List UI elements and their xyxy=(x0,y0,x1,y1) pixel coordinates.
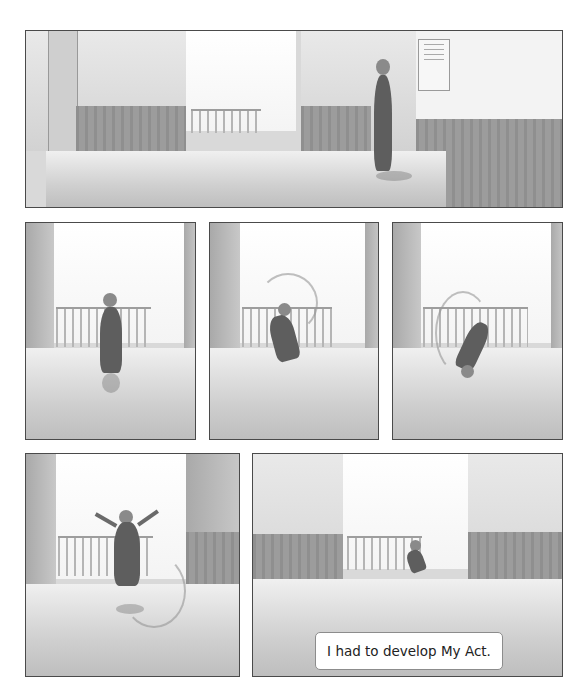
boy-head xyxy=(461,365,474,378)
caption-text: I had to develop My Act. xyxy=(327,643,491,659)
boy-head xyxy=(376,59,390,75)
boy-shadow xyxy=(376,171,412,181)
boy-standing xyxy=(374,75,392,171)
right-pillar xyxy=(551,223,563,358)
right-pillar xyxy=(365,223,379,358)
left-pillar xyxy=(393,223,421,358)
panel-1 xyxy=(25,30,563,208)
boy-walking xyxy=(100,307,122,373)
panel-5 xyxy=(25,453,240,677)
panel-2 xyxy=(25,222,196,440)
floor xyxy=(210,348,379,440)
motion-lines xyxy=(122,554,186,628)
boy-shadow xyxy=(102,373,120,393)
panel-4 xyxy=(392,222,563,440)
boy-shadow xyxy=(116,604,144,614)
right-wainscot-back xyxy=(301,106,371,151)
boy-head xyxy=(103,293,117,307)
left-pillar xyxy=(210,223,240,358)
left-pillar xyxy=(26,223,54,358)
left-pillar xyxy=(26,454,56,594)
right-pillar xyxy=(184,223,196,358)
panel-6: I had to develop My Act. xyxy=(252,453,563,677)
caption-box: I had to develop My Act. xyxy=(315,632,503,670)
stair-railing xyxy=(191,109,261,133)
panel-3 xyxy=(209,222,379,440)
wall-notice xyxy=(418,39,450,91)
